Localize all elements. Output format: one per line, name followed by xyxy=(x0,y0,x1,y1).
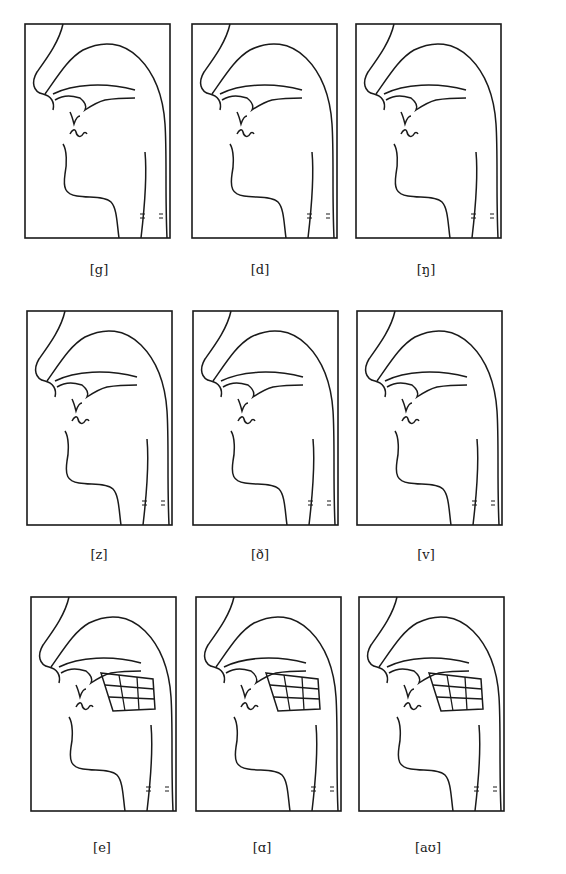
vocal-tract-diagram xyxy=(357,311,501,524)
sound-label: [d] xyxy=(230,262,290,277)
tongue-grid xyxy=(429,673,483,711)
tongue-grid xyxy=(101,673,155,711)
sound-label: [z] xyxy=(69,547,129,562)
vocal-tract-diagram xyxy=(196,597,340,812)
diagram-panel-d xyxy=(192,24,337,239)
diagram-panel-z xyxy=(27,311,173,524)
diagram-panel-eng xyxy=(356,24,501,239)
sound-label: [ð] xyxy=(230,547,290,562)
sound-label: [ɑ] xyxy=(232,840,292,855)
diagram-panel-au xyxy=(359,597,503,812)
vocal-tract-diagram xyxy=(193,311,337,524)
vocal-tract-diagram xyxy=(27,311,173,524)
diagram-panel-eth xyxy=(193,311,337,524)
vocal-tract-diagram xyxy=(25,24,172,239)
diagram-panel-e xyxy=(31,597,177,812)
sound-label: [ŋ] xyxy=(396,262,456,277)
sound-label: [v] xyxy=(396,547,456,562)
sound-label: [e] xyxy=(72,840,132,855)
vocal-tract-diagram xyxy=(192,24,337,239)
vocal-tract-diagram xyxy=(31,597,177,812)
tongue-grid xyxy=(266,673,320,711)
vocal-tract-diagram xyxy=(359,597,503,812)
diagram-panel-v xyxy=(357,311,501,524)
diagram-panel-script-a xyxy=(196,597,340,812)
vocal-tract-diagram xyxy=(356,24,501,239)
sound-label: [g] xyxy=(69,262,129,277)
sound-label: [aʊ] xyxy=(398,840,458,855)
diagram-panel-g xyxy=(25,24,172,239)
